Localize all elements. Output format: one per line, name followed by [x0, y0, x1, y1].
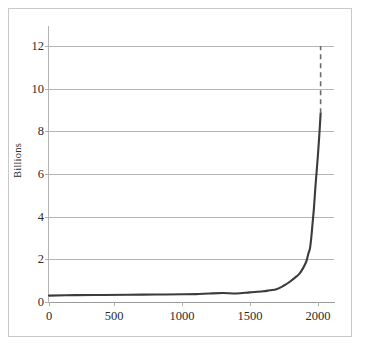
population-line — [49, 113, 321, 295]
population-growth-chart: 12 10 8 6 4 2 0 0 500 1000 1500 2000 Bil… — [0, 0, 365, 349]
series-layer — [0, 0, 365, 349]
